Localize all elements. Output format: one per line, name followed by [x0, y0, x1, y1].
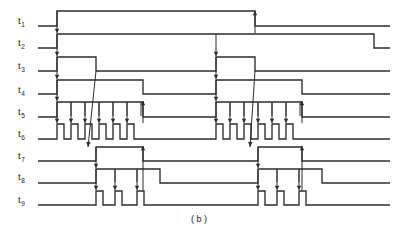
arrowhead-down-icon	[55, 119, 59, 123]
tick-marks	[71, 102, 300, 182]
arrowhead-down-icon	[275, 186, 279, 190]
arrowhead-down-icon	[94, 186, 98, 190]
arrowhead-down-icon	[256, 164, 260, 168]
arrowhead-down-icon	[125, 119, 129, 123]
arrowhead-diagonal-icon	[248, 142, 252, 147]
arrowhead-down-icon	[94, 164, 98, 168]
waveform-t1	[38, 11, 390, 26]
waveform-traces	[38, 11, 390, 205]
waveform-t4	[38, 80, 390, 94]
signal-label-t4: t4	[18, 84, 25, 97]
signal-label-t2: t2	[18, 37, 25, 50]
signal-label-t5: t5	[18, 106, 25, 119]
arrowhead-down-icon	[270, 119, 274, 123]
arrowhead-down-icon	[214, 52, 218, 56]
arrowhead-down-icon	[297, 186, 301, 190]
arrowhead-down-icon	[256, 119, 260, 123]
arrowhead-down-icon	[214, 97, 218, 101]
waveform-t6	[38, 124, 390, 139]
arrowhead-down-icon	[97, 119, 101, 123]
arrowhead-down-icon	[242, 119, 246, 123]
waveform-t2	[38, 34, 390, 48]
waveform-t7	[38, 147, 390, 161]
arrowhead-down-icon	[113, 186, 117, 190]
arrowhead-down-icon	[256, 186, 260, 190]
waveform-t5	[38, 102, 390, 117]
signal-label-t9: t9	[18, 194, 25, 207]
signal-label-t6: t6	[18, 128, 25, 141]
figure-caption: ( b )	[191, 214, 207, 224]
timing-diagram-figure: t1t2t3t4t5t6t7t8t9 ( b )	[0, 0, 399, 232]
signal-label-t3: t3	[18, 60, 25, 73]
waveform-t9	[38, 191, 390, 205]
signal-label-t1: t1	[18, 15, 25, 28]
arrowhead-down-icon	[214, 75, 218, 79]
arrowhead-down-icon	[135, 186, 139, 190]
arrowhead-down-icon	[55, 29, 59, 33]
arrowhead-down-icon	[55, 75, 59, 79]
signal-label-t8: t8	[18, 171, 25, 184]
signal-label-t7: t7	[18, 150, 25, 163]
waveform-t3	[38, 57, 390, 71]
arrowhead-down-icon	[214, 119, 218, 123]
arrowhead-down-icon	[111, 119, 115, 123]
arrowhead-down-icon	[69, 119, 73, 123]
causal-arrows	[55, 11, 304, 190]
arrowhead-down-icon	[83, 119, 87, 123]
arrowhead-down-icon	[228, 119, 232, 123]
arrowhead-down-icon	[284, 119, 288, 123]
signal-labels: t1t2t3t4t5t6t7t8t9	[18, 15, 25, 207]
waveform-t8	[38, 169, 390, 183]
timing-diagram-canvas: t1t2t3t4t5t6t7t8t9 ( b )	[0, 0, 399, 232]
arrowhead-down-icon	[55, 52, 59, 56]
diagonal-link	[250, 71, 255, 147]
arrowhead-down-icon	[55, 97, 59, 101]
